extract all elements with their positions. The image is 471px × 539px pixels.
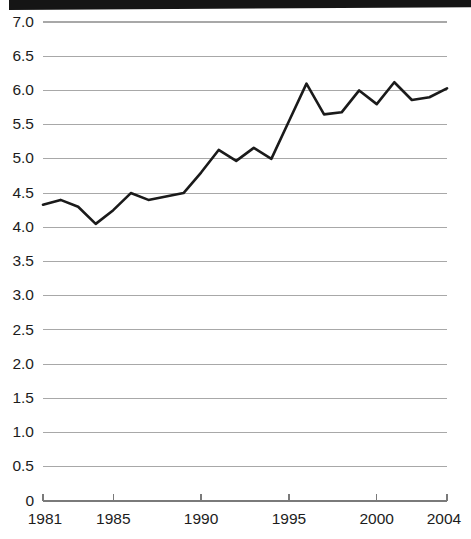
y-axis-tick-label: 6.5 (12, 47, 34, 64)
y-axis-tick-label: 2.5 (12, 321, 34, 338)
y-axis-tick-label: 2.0 (12, 355, 34, 372)
x-axis-tick-label: 2000 (359, 510, 394, 527)
y-axis-tick-labels: 00.51.01.52.02.53.03.54.04.55.05.56.06.5… (12, 13, 34, 509)
x-axis-tick-label: 1990 (184, 510, 219, 527)
y-axis-tick-label: 3.5 (12, 252, 34, 269)
y-axis-tick-label: 6.0 (12, 81, 34, 98)
y-axis-tick-label: 1.5 (12, 389, 34, 406)
x-axis-tick-labels: 198119851990199520002004 (28, 510, 462, 527)
gridlines-group (43, 22, 447, 467)
x-axis-tick-label: 1995 (272, 510, 306, 527)
y-axis-tick-label: 7.0 (12, 13, 34, 30)
x-axis-tick-label: 2004 (427, 510, 462, 527)
chart-page: 00.51.01.52.02.53.03.54.04.55.05.56.06.5… (0, 0, 471, 539)
y-axis-tick-label: 4.5 (12, 184, 34, 201)
y-axis-tick-label: 3.0 (12, 286, 34, 303)
y-axis-tick-label: 4.0 (12, 218, 34, 235)
line-chart: 00.51.01.52.02.53.03.54.04.55.05.56.06.5… (0, 0, 471, 539)
x-axis-tick-label: 1981 (28, 510, 62, 527)
data-series-line (43, 82, 447, 224)
y-axis-tick-label: 5.5 (12, 115, 34, 132)
x-axis-tick-label: 1985 (96, 510, 130, 527)
y-axis-tick-label: 5.0 (12, 149, 34, 166)
y-axis-tick-label: 1.0 (12, 423, 34, 440)
x-axis (43, 494, 447, 501)
y-axis-tick-label: 0 (25, 492, 34, 509)
y-axis-tick-label: 0.5 (12, 457, 34, 474)
